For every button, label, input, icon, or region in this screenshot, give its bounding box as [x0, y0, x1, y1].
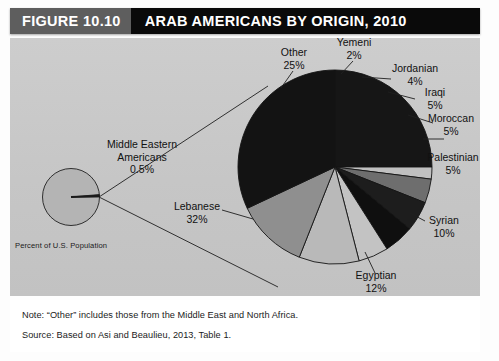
- label-egyptian: Egyptian 12%: [348, 269, 404, 294]
- label-palestinian-pct: 5%: [422, 164, 480, 177]
- inset-label-pct: 0.5%: [98, 163, 186, 176]
- inset-label-line2: Americans: [98, 151, 186, 164]
- pie-slice-group: [238, 70, 432, 264]
- label-other-pct: 25%: [261, 59, 327, 72]
- label-iraqi-pct: 5%: [415, 99, 455, 112]
- label-syrian-pct: 10%: [420, 227, 468, 240]
- label-lebanese-pct: 32%: [168, 213, 226, 226]
- label-syrian: Syrian 10%: [420, 214, 468, 239]
- label-lebanese: Lebanese 32%: [168, 200, 226, 225]
- label-yemeni-pct: 2%: [327, 49, 381, 62]
- label-moroccan-pct: 5%: [422, 125, 480, 138]
- chart-panel: Other 25% Yemeni 2% Jordanian 4% Iraqi 5…: [10, 38, 480, 296]
- label-moroccan: Moroccan 5%: [422, 112, 480, 137]
- label-jordanian: Jordanian 4%: [384, 62, 446, 87]
- label-syrian-name: Syrian: [429, 214, 459, 226]
- figure-title-text: ARAB AMERICANS BY ORIGIN, 2010: [131, 8, 417, 34]
- label-moroccan-name: Moroccan: [428, 112, 474, 124]
- figure-notes: Note: “Other” includes those from the Mi…: [10, 300, 480, 352]
- label-egyptian-pct: 12%: [348, 282, 404, 295]
- label-yemeni: Yemeni 2%: [327, 38, 381, 61]
- inset-axis-note: Percent of U.S. Population: [15, 241, 107, 250]
- label-lebanese-name: Lebanese: [174, 200, 220, 212]
- label-other-name: Other: [281, 46, 307, 58]
- label-other: Other 25%: [261, 46, 327, 71]
- label-palestinian: Palestinian 5%: [422, 151, 480, 176]
- label-yemeni-name: Yemeni: [337, 38, 372, 48]
- label-middle-eastern-americans: Middle Eastern Americans 0.5%: [98, 138, 186, 176]
- label-iraqi-name: Iraqi: [425, 86, 445, 98]
- note-text: Note: “Other” includes those from the Mi…: [22, 310, 298, 320]
- label-egyptian-name: Egyptian: [356, 269, 397, 281]
- figure-title-bar: FIGURE 10.10 ARAB AMERICANS BY ORIGIN, 2…: [10, 8, 480, 34]
- inset-label-line1: Middle Eastern: [107, 138, 177, 150]
- inset-pie: [43, 169, 100, 226]
- inset-slice-edge: [71, 196, 99, 197]
- label-jordanian-name: Jordanian: [392, 62, 438, 74]
- figure-number-badge: FIGURE 10.10: [10, 8, 131, 34]
- figure-container: FIGURE 10.10 ARAB AMERICANS BY ORIGIN, 2…: [0, 0, 499, 361]
- label-iraqi: Iraqi 5%: [415, 86, 455, 111]
- source-text: Source: Based on Asi and Beaulieu, 2013,…: [22, 330, 231, 340]
- label-palestinian-name: Palestinian: [427, 151, 478, 163]
